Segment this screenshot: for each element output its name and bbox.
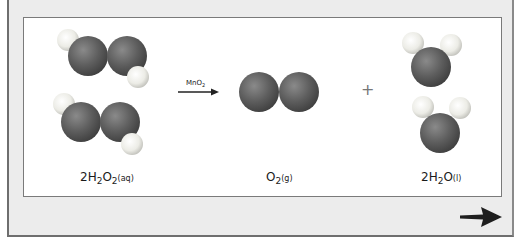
hydrogen-atom [121,133,143,155]
reactant-state: (aq) [118,174,134,183]
o2-state: (g) [281,174,292,183]
h2o-molecule-2 [412,96,471,153]
h2o2-molecule-1 [57,29,149,88]
catalyst-subscript: 2 [202,82,205,88]
oxygen-atom [420,113,460,153]
h2o-mid: O [443,170,452,184]
catalyst-label: MnO2 [186,79,205,88]
reaction-arrow-icon [178,89,219,96]
reaction-scene [0,0,517,251]
hydrogen-atom [412,96,434,118]
plus-sign: + [361,82,374,98]
reactant-coef: 2H [80,170,97,184]
h2o-coef: 2H [421,170,438,184]
reactant-label: 2H2O2(aq) [80,170,134,186]
o2-molecule [239,72,319,112]
reactant-mid: O [102,170,111,184]
right-arrow-icon [456,204,506,232]
catalyst-formula: MnO [186,79,202,87]
product-o2-label: O2(g) [266,170,293,186]
h2o2-molecule-2 [53,93,143,155]
oxygen-atom [279,72,319,112]
oxygen-atom [68,36,108,76]
product-h2o-label: 2H2O(l) [421,170,461,186]
next-button[interactable] [456,204,506,232]
h2o-state: (l) [453,174,461,183]
oxygen-atom [411,47,451,87]
h2o-molecule-1 [402,32,462,87]
hydrogen-atom [127,66,149,88]
hydrogen-atom [449,97,471,119]
oxygen-atom [239,72,279,112]
oxygen-atom [61,102,101,142]
